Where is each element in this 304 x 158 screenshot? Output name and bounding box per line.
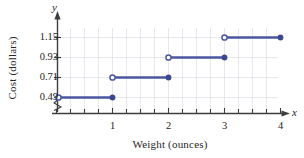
closed-endpoint-4 xyxy=(278,35,284,41)
vertical-gridlines xyxy=(71,28,267,114)
open-endpoint-4 xyxy=(222,35,227,40)
step-function-chart: y x 1.15 0.93 0.71 0.49 1 2 3 4 Cost (do… xyxy=(0,0,304,158)
closed-endpoint-1 xyxy=(110,95,116,101)
y-tick-label-0-49: 0.49 xyxy=(24,91,58,102)
x-tick-label-2: 2 xyxy=(159,120,179,131)
horizontal-gridlines xyxy=(57,38,278,98)
x-axis-title: Weight (ounces) xyxy=(112,138,228,150)
y-axis-title: Cost (dollars) xyxy=(6,30,18,106)
closed-endpoint-2 xyxy=(166,75,172,81)
x-tick-label-4: 4 xyxy=(271,120,291,131)
x-tick-label-1: 1 xyxy=(103,120,123,131)
x-tick-label-3: 3 xyxy=(215,120,235,131)
y-tick-label-0-93: 0.93 xyxy=(24,51,58,62)
open-endpoint-2 xyxy=(110,75,115,80)
y-tick-label-1-15: 1.15 xyxy=(24,31,58,42)
x-axis-ticks xyxy=(57,108,281,114)
x-axis-variable-label: x xyxy=(292,106,297,118)
open-endpoints xyxy=(56,35,227,100)
closed-endpoint-3 xyxy=(222,55,228,61)
y-axis-variable-label: y xyxy=(52,1,57,13)
step-segments xyxy=(58,38,281,98)
open-endpoint-3 xyxy=(166,55,171,60)
x-axis xyxy=(52,110,290,116)
y-tick-label-0-71: 0.71 xyxy=(24,71,58,82)
